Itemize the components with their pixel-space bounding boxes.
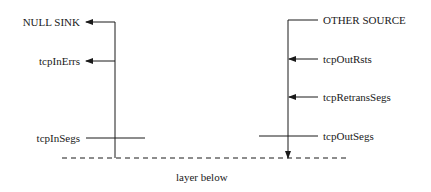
label-layer-below: layer below [176,171,228,183]
label-tcpinsegs: tcpInSegs [37,132,80,144]
label-tcpinerrs: tcpInErrs [39,55,80,67]
label-tcpoutsegs: tcpOutSegs [323,130,374,142]
label-tcpoutrsts: tcpOutRsts [323,53,372,65]
label-null-sink: NULL SINK [23,16,80,28]
right-flow [259,20,318,158]
left-flow [86,22,145,158]
label-other-source: OTHER SOURCE [323,14,406,26]
label-tcpretranssegs: tcpRetransSegs [323,91,391,103]
